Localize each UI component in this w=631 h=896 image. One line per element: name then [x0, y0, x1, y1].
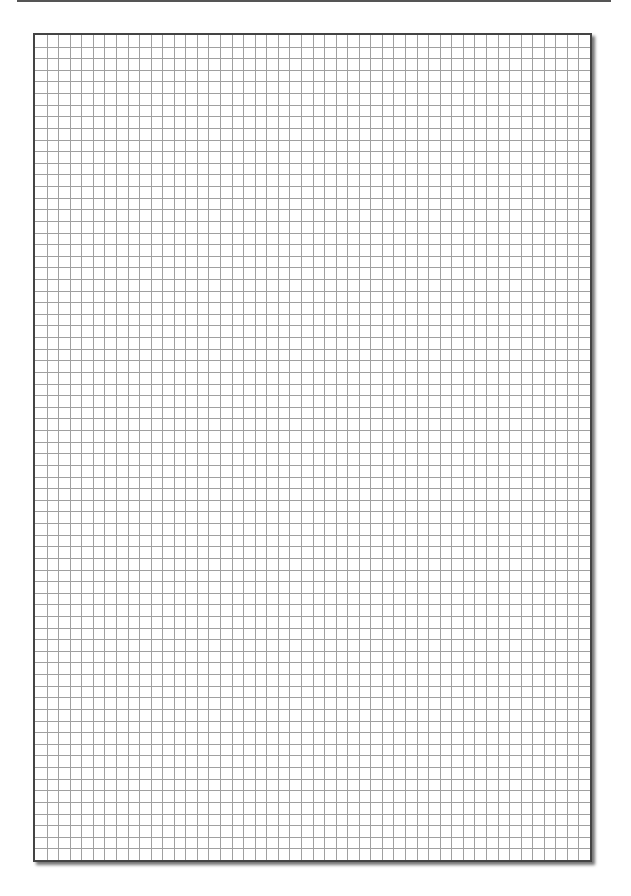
- grid-svg: [35, 35, 590, 860]
- top-rule: [17, 0, 611, 2]
- grid-lines: [35, 35, 590, 860]
- graph-paper-sheet: [33, 33, 592, 862]
